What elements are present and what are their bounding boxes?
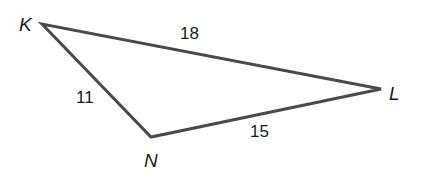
triangle-KNL [42, 24, 381, 137]
side-label-KL: 18 [180, 24, 199, 43]
side-label-KN: 11 [76, 88, 94, 107]
vertex-label-N: N [144, 150, 158, 171]
triangle-diagram: K N L 18 11 15 [0, 0, 422, 173]
side-label-NL: 15 [250, 122, 269, 141]
vertex-label-K: K [19, 14, 33, 35]
vertex-label-L: L [389, 83, 400, 104]
